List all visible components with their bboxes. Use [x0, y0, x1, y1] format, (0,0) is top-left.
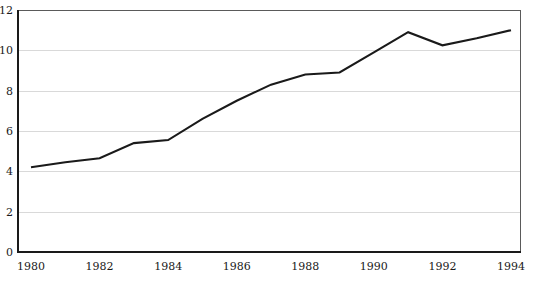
y-tick-label-12: 12: [0, 4, 13, 17]
x-tick-label-1994: 1994: [497, 260, 525, 273]
chart-canvas: 024681012 198019821984198619881990199219…: [0, 0, 535, 281]
line-chart: 024681012 198019821984198619881990199219…: [0, 0, 535, 281]
x-tick-label-1992: 1992: [428, 260, 456, 273]
x-tick-label-1980: 1980: [17, 260, 45, 273]
y-tick-label-6: 6: [6, 125, 13, 138]
y-tick-label-10: 10: [0, 44, 13, 57]
y-tick-label-8: 8: [6, 85, 13, 98]
x-tick-label-1982: 1982: [86, 260, 114, 273]
y-tick-label-2: 2: [6, 206, 13, 219]
y-tick-label-4: 4: [6, 165, 13, 178]
y-tick-label-0: 0: [6, 246, 13, 259]
x-tick-label-1988: 1988: [291, 260, 319, 273]
x-tick-label-1984: 1984: [154, 260, 182, 273]
x-tick-label-1990: 1990: [360, 260, 388, 273]
x-tick-label-1986: 1986: [223, 260, 251, 273]
